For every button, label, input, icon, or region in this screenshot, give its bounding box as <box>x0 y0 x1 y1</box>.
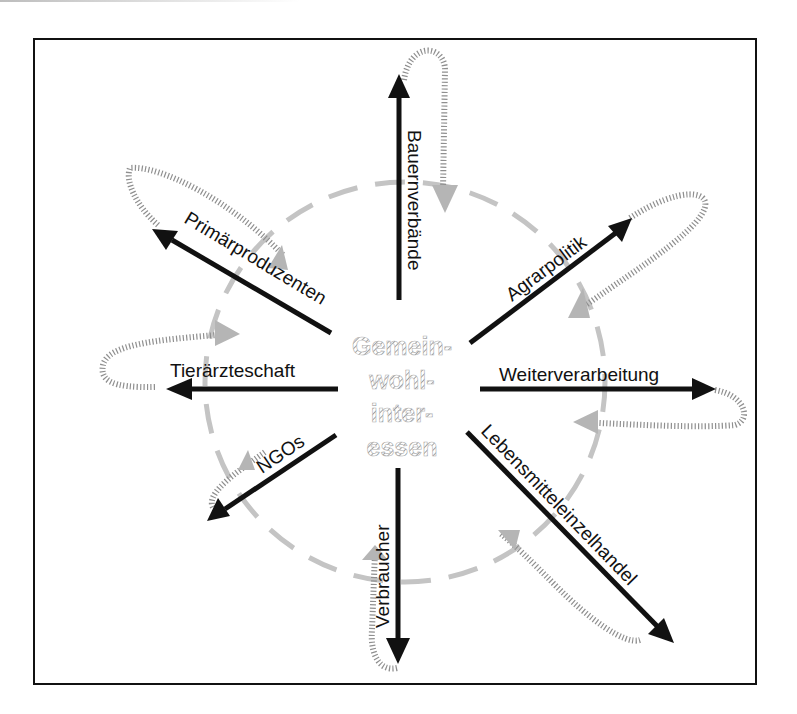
label-agrarpolitik: Agrarpolitik <box>502 231 591 305</box>
loop-arrowhead-icon <box>573 410 598 434</box>
loop-arrowhead-icon <box>432 185 458 213</box>
arrow-agrarpolitik <box>470 232 617 343</box>
loop-arrowhead-icon <box>215 320 240 346</box>
arrowhead-up-icon <box>388 74 410 98</box>
arrow-lebensmitteleinzelhandel <box>467 432 657 626</box>
arrowhead-down-icon <box>386 638 410 664</box>
arrowhead-right-icon <box>692 378 716 400</box>
stakeholder-diagram: Bauernverbände Agrarpolitik Weiterverarb… <box>0 0 797 714</box>
label-tieraerzteschaft: Tierärzteschaft <box>170 360 296 381</box>
label-bauernverbaende: Bauernverbände <box>404 130 425 271</box>
center-line-2: wohl- <box>368 366 434 394</box>
loop-agrarpolitik <box>582 194 705 308</box>
center-line-1: Gemein- <box>352 332 452 360</box>
center-line-4: essen <box>367 433 438 461</box>
label-lebensmitteleinzelhandel: Lebensmitteleinzelhandel <box>477 420 641 589</box>
center-label: Gemein- wohl- inter- essen <box>352 332 452 461</box>
label-verbraucher: Verbraucher <box>372 524 393 628</box>
arrowhead-left-icon <box>166 378 192 400</box>
center-line-3: inter- <box>371 399 434 427</box>
label-weiterverarbeitung: Weiterverarbeitung <box>499 364 659 385</box>
